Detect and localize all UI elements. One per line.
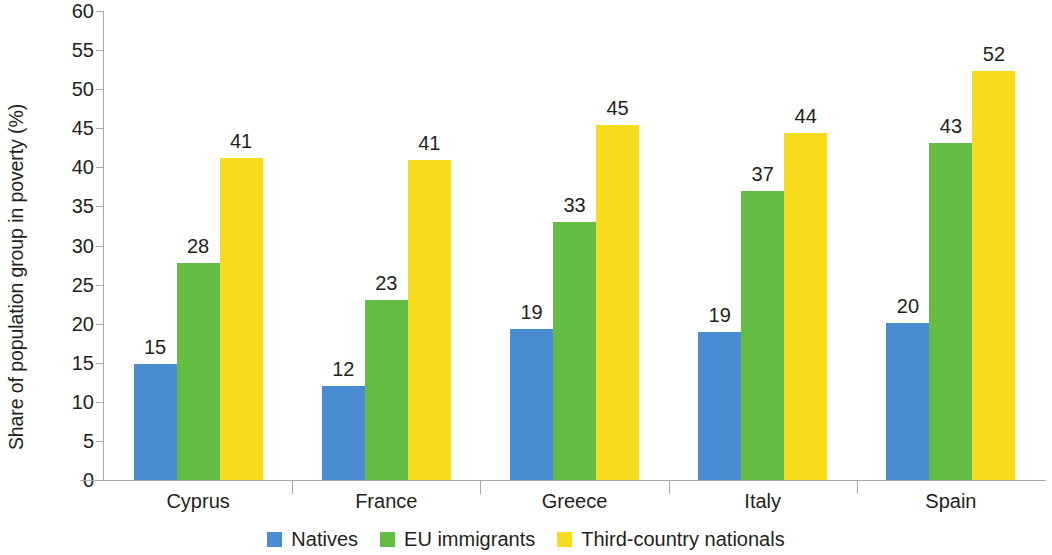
bar-value-label: 20 [897, 296, 919, 316]
bar-group-spain: 204352 [886, 11, 1015, 480]
bar-value-label: 12 [332, 359, 354, 379]
y-tick-mark [96, 441, 104, 442]
legend-item[interactable]: Third-country nationals [557, 529, 784, 549]
bar-value-label: 41 [418, 133, 440, 153]
bar[interactable]: 41 [220, 158, 263, 480]
bar[interactable]: 43 [929, 143, 972, 480]
y-tick-mark [96, 50, 104, 51]
bar[interactable]: 37 [741, 191, 784, 480]
y-tick-label: 50 [48, 79, 94, 99]
legend-item[interactable]: EU immigrants [380, 529, 535, 549]
legend-label: Natives [291, 529, 358, 549]
y-tick-label: 60 [48, 1, 94, 21]
bar-value-label: 44 [795, 106, 817, 126]
bar-value-label: 43 [940, 116, 962, 136]
bar-value-label: 28 [187, 236, 209, 256]
y-tick-mark [96, 285, 104, 286]
y-tick-mark [96, 363, 104, 364]
bar-value-label: 33 [563, 195, 585, 215]
bar[interactable]: 23 [365, 300, 408, 480]
bar-value-label: 52 [983, 44, 1005, 64]
bar[interactable]: 19 [510, 329, 553, 480]
bar-value-label: 45 [606, 98, 628, 118]
y-tick-mark [96, 324, 104, 325]
plot-area: 152841122341193345193744204352 [104, 11, 1045, 480]
bar[interactable]: 20 [886, 323, 929, 480]
bar[interactable]: 52 [972, 71, 1015, 480]
bar[interactable]: 19 [698, 332, 741, 480]
bar[interactable]: 45 [596, 125, 639, 480]
legend-item[interactable]: Natives [267, 529, 358, 549]
x-axis-label-spain: Spain [857, 491, 1045, 511]
x-axis-label-france: France [292, 491, 480, 511]
bar-group-italy: 193744 [698, 11, 827, 480]
legend-label: Third-country nationals [581, 529, 784, 549]
y-tick-label: 25 [48, 275, 94, 295]
bar[interactable]: 41 [408, 160, 451, 480]
bar[interactable]: 12 [322, 386, 365, 480]
y-tick-label: 55 [48, 40, 94, 60]
bar-value-label: 15 [144, 337, 166, 357]
bar-group-greece: 193345 [510, 11, 639, 480]
y-axis-title: Share of population group in poverty (%) [0, 32, 32, 522]
bar-group-cyprus: 152841 [134, 11, 263, 480]
y-tick-label: 40 [48, 157, 94, 177]
y-tick-mark [96, 402, 104, 403]
y-tick-mark [96, 89, 104, 90]
y-tick-label: 35 [48, 196, 94, 216]
y-tick-label: 20 [48, 314, 94, 334]
y-axis-tick-labels: 051015202530354045505560 [38, 0, 94, 555]
y-tick-label: 15 [48, 353, 94, 373]
legend-swatch-icon [380, 532, 395, 547]
bar[interactable]: 15 [134, 364, 177, 480]
y-tick-label: 10 [48, 392, 94, 412]
y-tick-mark [96, 167, 104, 168]
x-axis-label-cyprus: Cyprus [104, 491, 292, 511]
legend-swatch-icon [267, 532, 282, 547]
x-axis-label-italy: Italy [669, 491, 857, 511]
y-tick-label: 45 [48, 118, 94, 138]
bar-value-label: 19 [520, 302, 542, 322]
y-tick-mark [96, 206, 104, 207]
y-tick-mark [96, 11, 104, 12]
bar-group-france: 122341 [322, 11, 451, 480]
bar-value-label: 19 [709, 305, 731, 325]
legend-swatch-icon [557, 532, 572, 547]
y-tick-mark [96, 128, 104, 129]
bar[interactable]: 33 [553, 222, 596, 480]
bar[interactable]: 44 [784, 133, 827, 480]
bar-value-label: 37 [752, 164, 774, 184]
bar-value-label: 23 [375, 273, 397, 293]
x-axis-line [80, 480, 1046, 481]
bar-value-label: 41 [230, 131, 252, 151]
y-tick-label: 30 [48, 236, 94, 256]
bar-chart: Share of population group in poverty (%)… [0, 0, 1052, 555]
y-tick-mark [96, 246, 104, 247]
y-tick-mark [96, 480, 104, 481]
x-axis-label-greece: Greece [480, 491, 668, 511]
bar[interactable]: 28 [177, 263, 220, 480]
chart-legend: NativesEU immigrantsThird-country nation… [0, 529, 1052, 549]
legend-label: EU immigrants [404, 529, 535, 549]
y-tick-label: 5 [48, 431, 94, 451]
